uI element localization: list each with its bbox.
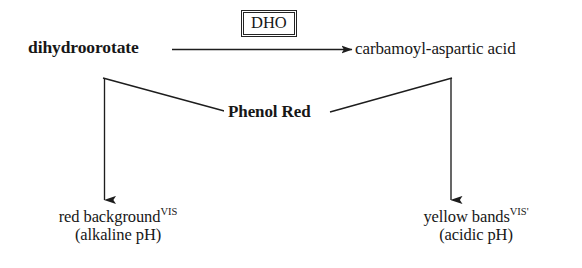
outcome-right-superscript: VIS'	[510, 206, 529, 217]
outcome-left-superscript: VIS	[160, 206, 177, 217]
indicator-connector-right	[330, 78, 452, 112]
outcome-left-text: red background	[59, 207, 161, 226]
outcome-left: red backgroundVIS (alkaline pH)	[28, 206, 208, 244]
outcome-left-condition: (alkaline pH)	[28, 226, 208, 244]
substrate-label: dihydroorotate	[28, 38, 139, 58]
indicator-label-phenol-red: Phenol Red	[224, 102, 315, 121]
indicator-connector-left	[103, 78, 228, 112]
outcome-right-condition: (acidic pH)	[388, 226, 564, 244]
outcome-right-text: yellow bands	[423, 207, 509, 226]
product-label: carbamoyl-aspartic acid	[355, 39, 516, 58]
outcome-right: yellow bandsVIS' (acidic pH)	[388, 206, 564, 244]
enzyme-box-dho: DHO	[243, 12, 295, 35]
reaction-scheme-figure: dihydroorotate DHO carbamoyl-aspartic ac…	[0, 0, 582, 268]
